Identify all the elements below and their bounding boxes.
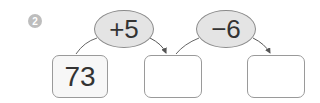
answer-box-2[interactable] <box>247 55 305 98</box>
start-value-box: 73 <box>52 55 108 98</box>
answer-box-1[interactable] <box>144 55 202 98</box>
operation-minus-six: −6 <box>196 10 256 48</box>
start-value: 73 <box>64 61 95 93</box>
operation-label: −6 <box>211 14 241 45</box>
operation-label: +5 <box>109 14 139 45</box>
operation-plus-five: +5 <box>94 10 154 48</box>
